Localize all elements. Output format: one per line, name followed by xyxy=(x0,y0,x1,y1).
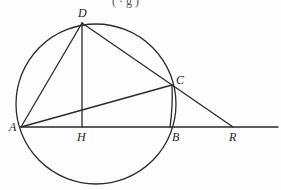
segment-AD xyxy=(21,23,82,127)
geometry-diagram: ( · g ) D C A H B R xyxy=(0,0,281,190)
label-A: A xyxy=(8,120,17,134)
label-H: H xyxy=(76,130,87,144)
circumcircle xyxy=(16,24,176,184)
label-D: D xyxy=(77,6,87,20)
caption-fragment: ( · g ) xyxy=(112,0,139,8)
segment-AC xyxy=(21,85,172,127)
label-R: R xyxy=(228,130,237,144)
segment-CB xyxy=(170,85,172,127)
label-B: B xyxy=(172,130,180,144)
segment-DR xyxy=(82,23,233,127)
label-C: C xyxy=(176,73,185,87)
